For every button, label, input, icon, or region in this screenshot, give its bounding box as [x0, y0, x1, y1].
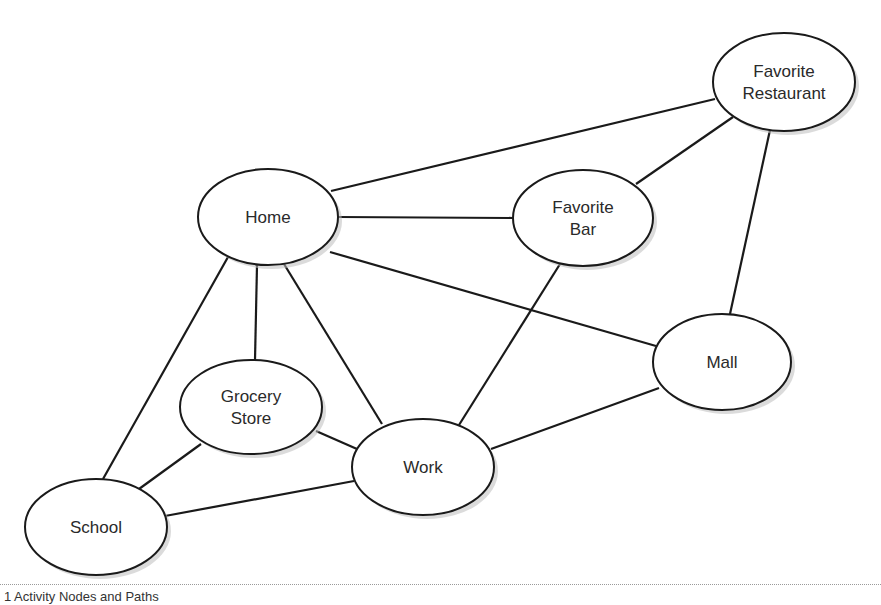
edge-home-grocery: [255, 265, 257, 360]
edge-grocery-school: [139, 444, 201, 489]
node-bar: FavoriteBar: [513, 170, 657, 270]
node-label: Work: [403, 458, 443, 477]
node-restaurant: FavoriteRestaurant: [713, 33, 859, 135]
edge-home-restaurant: [331, 99, 715, 191]
edge-home-bar: [338, 217, 513, 218]
node-ellipse: [513, 170, 653, 266]
edge-grocery-work: [316, 431, 357, 449]
edge-bar-restaurant: [636, 117, 733, 184]
node-label: Home: [245, 208, 290, 227]
caption-divider: [0, 584, 881, 585]
node-label: Grocery: [221, 387, 282, 406]
node-school: School: [25, 479, 171, 579]
figure-caption: 1 Activity Nodes and Paths: [4, 589, 159, 605]
nodes-layer: FavoriteRestaurantHomeFavoriteBarMallGro…: [25, 33, 859, 579]
node-work: Work: [352, 419, 498, 519]
node-label: Mall: [706, 353, 737, 372]
node-label: Store: [231, 409, 272, 428]
node-label: Favorite: [753, 62, 814, 81]
node-ellipse: [713, 33, 855, 131]
edge-bar-work: [459, 264, 560, 425]
node-label: Restaurant: [742, 84, 825, 103]
node-label: School: [70, 518, 122, 537]
node-ellipse: [180, 360, 322, 454]
node-home: Home: [198, 169, 342, 269]
edge-mall-work: [491, 388, 659, 449]
node-label: Favorite: [552, 198, 613, 217]
node-mall: Mall: [653, 314, 795, 414]
edge-mall-restaurant: [730, 130, 770, 314]
edge-work-school: [165, 481, 354, 516]
node-label: Bar: [570, 220, 597, 239]
node-grocery: GroceryStore: [180, 360, 326, 458]
